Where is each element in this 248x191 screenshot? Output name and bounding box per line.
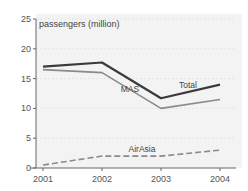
x-ticks: 2001200220032004 <box>33 168 230 184</box>
line-chart: 0510152025 2001200220032004 passengers (… <box>0 0 248 191</box>
series-label-airasia: AirAsia <box>129 144 156 154</box>
y-tick-label: 5 <box>26 133 31 143</box>
x-tick-label: 2003 <box>151 174 171 184</box>
y-tick-label: 10 <box>21 103 31 113</box>
y-tick-label: 20 <box>21 44 31 54</box>
y-tick-label: 15 <box>21 74 31 84</box>
y-axis-title: passengers (million) <box>39 19 120 29</box>
series-label-mas: MAS <box>121 84 140 94</box>
x-tick-label: 2002 <box>92 174 112 184</box>
y-tick-label: 25 <box>21 14 31 24</box>
series-label-total: Total <box>179 80 197 90</box>
y-ticks: 0510152025 <box>21 14 36 173</box>
y-tick-label: 0 <box>26 163 31 173</box>
x-tick-label: 2001 <box>33 174 53 184</box>
x-tick-label: 2004 <box>210 174 230 184</box>
